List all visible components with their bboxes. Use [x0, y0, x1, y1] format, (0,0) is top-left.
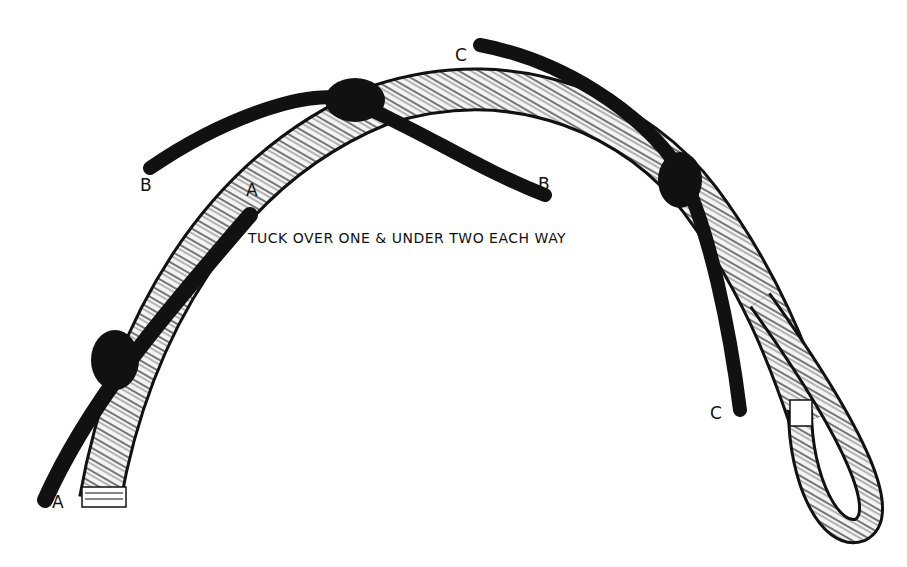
label-a-upper: A — [246, 180, 258, 200]
label-c-right: C — [710, 403, 722, 423]
rope-drawing — [0, 0, 907, 567]
label-c-top: C — [455, 45, 467, 65]
instruction-caption: TUCK OVER ONE & UNDER TWO EACH WAY — [248, 230, 566, 246]
label-a-lower: A — [52, 492, 64, 512]
splice-diagram: TUCK OVER ONE & UNDER TWO EACH WAY B A C… — [0, 0, 907, 567]
label-b-right: B — [538, 174, 550, 194]
label-b-left: B — [140, 175, 152, 195]
